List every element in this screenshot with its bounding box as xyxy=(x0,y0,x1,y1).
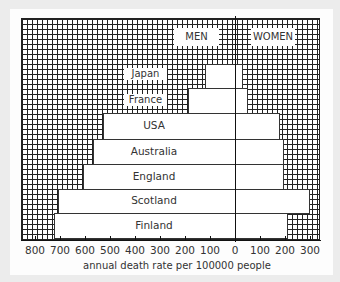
x-tick-label: 300 xyxy=(295,244,325,256)
women-label: WOMEN xyxy=(251,28,295,46)
x-tick xyxy=(35,236,36,241)
x-tick xyxy=(185,236,186,241)
category-label: Finland xyxy=(114,219,194,231)
zero-axis-line xyxy=(235,16,236,242)
category-label: England xyxy=(114,170,194,182)
category-label: USA xyxy=(114,119,194,131)
category-label: Scotland xyxy=(114,194,194,206)
x-axis-title: annual death rate per 100000 people xyxy=(0,260,340,271)
category-label: Australia xyxy=(114,145,194,157)
x-tick xyxy=(135,236,136,241)
x-tick xyxy=(85,236,86,241)
bar-japan xyxy=(205,64,243,89)
x-tick xyxy=(60,236,61,241)
men-label: MEN xyxy=(174,28,219,46)
bar-france xyxy=(188,88,248,114)
category-label: Japan xyxy=(124,68,167,80)
x-tick xyxy=(260,236,261,241)
x-axis-line xyxy=(21,240,321,241)
category-label: France xyxy=(124,94,167,106)
x-tick xyxy=(285,236,286,241)
x-tick xyxy=(110,236,111,241)
x-tick xyxy=(160,236,161,241)
x-tick xyxy=(235,236,236,241)
x-tick xyxy=(210,236,211,241)
x-tick xyxy=(310,236,311,241)
